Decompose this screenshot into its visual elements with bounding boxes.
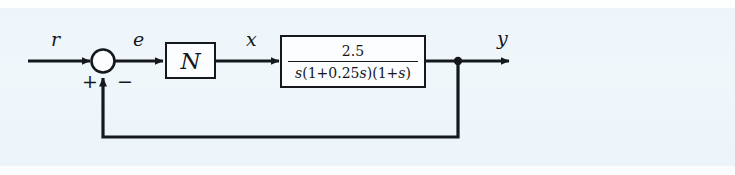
summing-junction-plus-sign: + [82,72,98,91]
block-nonlinearity: N [165,42,216,79]
label-controller-output-x: x [246,30,257,49]
figure-canvas: N 2.5 s(1+0.25s)(1+s) r e x y + − [0,0,735,175]
plant-den-close2: ) [405,65,410,81]
summing-junction-minus-sign: − [117,72,133,91]
block-plant: 2.5 s(1+0.25s)(1+s) [280,35,426,88]
plant-denominator: s(1+0.25s)(1+s) [282,62,424,81]
plant-den-open1: (1+0.25 [302,65,359,81]
plant-numerator: 2.5 [282,43,424,61]
plant-den-open2: (1+ [372,65,398,81]
block-nonlinearity-label: N [180,48,200,74]
label-reference-r: r [51,30,60,49]
label-output-y: y [497,29,508,48]
plant-den-s2: s [360,65,367,81]
label-error-e: e [133,30,144,49]
